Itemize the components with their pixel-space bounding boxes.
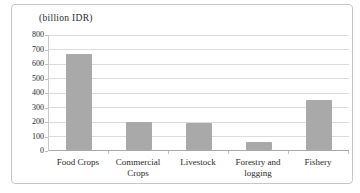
chart-figure: (billion IDR) 0100200300400500600700800 … <box>11 4 353 184</box>
chart-canvas: (billion IDR) 0100200300400500600700800 … <box>0 0 360 193</box>
y-tick-label-100: 100 <box>14 132 44 142</box>
gridline-y-400 <box>49 93 349 94</box>
x-tick-mark-3 <box>228 151 229 154</box>
y-tick-mark-700 <box>45 50 48 51</box>
y-tick-label-800: 800 <box>14 30 44 40</box>
x-tick-mark-5 <box>348 151 349 154</box>
y-tick-label-200: 200 <box>14 117 44 127</box>
y-tick-mark-800 <box>45 35 48 36</box>
y-tick-mark-200 <box>45 122 48 123</box>
axis-unit-label: (billion IDR) <box>39 13 93 23</box>
gridline-y-600 <box>49 64 349 65</box>
y-tick-label-300: 300 <box>14 103 44 113</box>
plot-area <box>48 35 349 151</box>
bar-fishery <box>306 100 332 150</box>
gridline-y-800 <box>49 35 349 36</box>
y-tick-mark-0 <box>45 151 48 152</box>
bar-commercial-crops <box>126 122 152 150</box>
x-tick-mark-4 <box>288 151 289 154</box>
gridline-y-500 <box>49 78 349 79</box>
x-category-label-food-crops: Food Crops <box>48 157 108 168</box>
y-tick-mark-400 <box>45 93 48 94</box>
y-tick-label-500: 500 <box>14 74 44 84</box>
y-tick-mark-300 <box>45 108 48 109</box>
y-tick-mark-100 <box>45 137 48 138</box>
x-axis-line <box>49 150 349 151</box>
x-category-label-commercial-crops: Commercial Crops <box>108 157 168 178</box>
x-category-label-forestry-and-logging: Forestry and logging <box>228 157 288 178</box>
y-tick-mark-600 <box>45 64 48 65</box>
y-tick-label-600: 600 <box>14 59 44 69</box>
bar-forestry-and-logging <box>246 142 272 150</box>
x-category-label-fishery: Fishery <box>288 157 348 168</box>
x-tick-mark-2 <box>168 151 169 154</box>
gridline-y-300 <box>49 107 349 108</box>
gridline-y-700 <box>49 49 349 50</box>
gridline-y-200 <box>49 122 349 123</box>
y-tick-mark-500 <box>45 79 48 80</box>
y-tick-label-400: 400 <box>14 88 44 98</box>
x-tick-mark-1 <box>108 151 109 154</box>
y-tick-label-700: 700 <box>14 45 44 55</box>
y-tick-label-0: 0 <box>14 146 44 156</box>
bar-livestock <box>186 123 212 150</box>
bar-food-crops <box>66 54 92 150</box>
x-category-label-livestock: Livestock <box>168 157 228 168</box>
